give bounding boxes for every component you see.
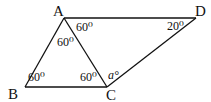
angle-acd-label: a° (108, 68, 119, 82)
vertex-label-c: C (106, 87, 116, 102)
vertex-label-b: B (8, 86, 18, 102)
angle-abc-label: 60⁰ (28, 70, 45, 84)
geometry-diagram: A B C D 60⁰ 60⁰ 60⁰ 60⁰ 20⁰ a° (0, 0, 211, 102)
vertex-label-a: A (53, 3, 64, 19)
angle-adc-label: 20⁰ (167, 19, 184, 33)
angle-acb-label: 60⁰ (80, 70, 97, 84)
vertex-label-d: D (195, 3, 206, 19)
angle-dac-label: 60⁰ (76, 20, 93, 34)
angle-bac-label: 60⁰ (57, 35, 74, 49)
